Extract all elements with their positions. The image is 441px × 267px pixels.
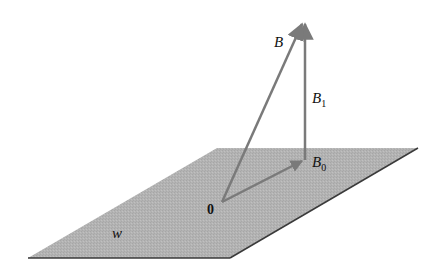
- label-origin: 0: [207, 202, 214, 217]
- projection-diagram: B B1 B0 0 W: [0, 0, 441, 267]
- label-b: B: [274, 34, 283, 50]
- label-b1: B1: [312, 90, 326, 109]
- plane-w: [28, 148, 418, 258]
- label-plane-w: W: [112, 225, 122, 241]
